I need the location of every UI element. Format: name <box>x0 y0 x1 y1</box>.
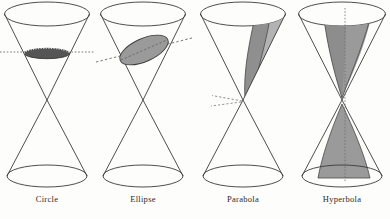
conic-sections-diagram <box>0 0 390 219</box>
conic-section-hyperbola-upper-group <box>322 2 374 98</box>
conic-section-parabola-front <box>245 4 272 99</box>
caption-circle: Circle <box>36 194 59 204</box>
cone-upper-left-edge-parabola <box>201 14 244 100</box>
conic-sections-figure: Circle Ellipse Parabola Hyperbola <box>0 0 390 219</box>
cone-top-rim-circle <box>5 2 90 26</box>
conic-section-parabola-group <box>245 4 292 99</box>
cone-lower-left-edge-circle <box>7 100 47 176</box>
cone-lower-right-edge-circle <box>47 100 87 176</box>
conic-section-ellipse <box>116 29 173 71</box>
cone-lower-left-edge-parabola <box>203 100 243 176</box>
cone-lower-right-edge-ellipse <box>143 100 183 176</box>
cone-bottom-rim-ellipse <box>103 165 183 187</box>
cone-bottom-rim-circle <box>7 165 87 187</box>
cone-top-rim-ellipse <box>101 2 186 26</box>
caption-ellipse: Ellipse <box>130 194 156 204</box>
caption-hyperbola: Hyperbola <box>323 194 362 204</box>
panel-ellipse <box>96 2 192 187</box>
cone-top-rim-hyperbola <box>299 2 386 26</box>
cone-lower-right-edge-parabola <box>243 100 283 176</box>
cutting-plane-line-parabola-extend <box>212 92 242 105</box>
cutting-plane-line-parabola <box>211 102 241 106</box>
caption-parabola: Parabola <box>227 194 259 204</box>
cone-top-rim-parabola <box>201 2 286 26</box>
cone-lower-left-edge-ellipse <box>103 100 143 176</box>
panel-parabola <box>201 2 293 187</box>
panel-hyperbola <box>299 2 386 187</box>
panel-circle <box>0 2 94 187</box>
cone-bottom-rim-parabola <box>203 165 283 187</box>
